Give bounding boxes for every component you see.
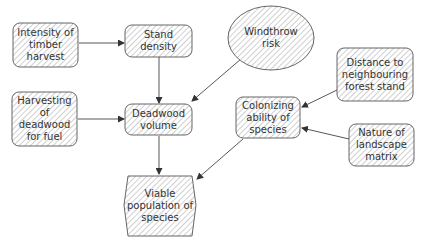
node-deadwood-volume: Deadwood volume — [125, 104, 192, 135]
node-colonizing-ability-of-species: Colonizing ability of species — [236, 97, 300, 138]
node-label: Stand density — [140, 29, 177, 53]
node-stand-density: Stand density — [125, 25, 192, 57]
node-distance-to-neighbouring-forest-stand: Distance to neighbouring forest stand — [337, 48, 413, 101]
node-label: Viable population of species — [127, 188, 193, 224]
node-label: Windthrow risk — [244, 26, 298, 50]
edge-landscape-to-colonizing — [302, 128, 349, 139]
edge-distance-to-colonizing — [302, 90, 337, 107]
node-intensity-of-timber-harvest: Intensity of timber harvest — [13, 23, 78, 67]
node-label: Harvesting of deadwood for fuel — [17, 95, 71, 143]
node-harvesting-of-deadwood-for-fuel: Harvesting of deadwood for fuel — [12, 92, 77, 146]
node-label: Distance to neighbouring forest stand — [342, 57, 408, 93]
node-label: Intensity of timber harvest — [17, 27, 73, 63]
node-nature-of-landscape-matrix: Nature of landscape matrix — [349, 124, 414, 166]
node-viable-population-of-species: Viable population of species — [124, 176, 196, 236]
node-label: Deadwood volume — [132, 108, 185, 132]
node-label: Nature of landscape matrix — [356, 127, 407, 163]
node-windthrow-risk: Windthrow risk — [228, 6, 314, 70]
edge-colonizing-to-viable — [197, 139, 243, 179]
node-label: Colonizing ability of species — [242, 100, 294, 136]
